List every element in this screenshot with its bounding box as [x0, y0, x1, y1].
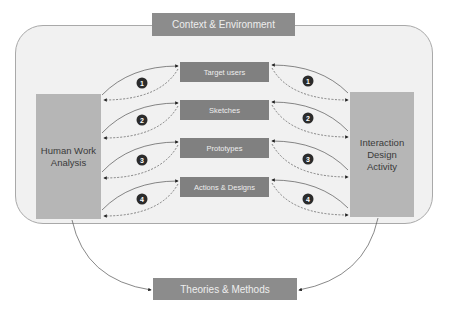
- step-badge-right-3: 3: [303, 154, 314, 165]
- step-badge-right-1: 1: [303, 76, 314, 87]
- step-badge-right-2: 2: [303, 113, 314, 124]
- step-badge-left-1: 1: [137, 78, 148, 89]
- step-badge-left-3: 3: [137, 155, 148, 166]
- context-environment-label: Context & Environment: [152, 13, 295, 36]
- sketches-box: Sketches: [180, 100, 269, 120]
- prototypes-box: Prototypes: [180, 138, 269, 158]
- interaction-design-activity-box: Interaction Design Activity: [350, 92, 414, 217]
- step-badge-left-2: 2: [137, 115, 148, 126]
- step-badge-left-4: 4: [137, 194, 148, 205]
- target-users-box: Target users: [180, 62, 269, 82]
- theories-methods-box: Theories & Methods: [153, 278, 297, 300]
- step-badge-right-4: 4: [303, 194, 314, 205]
- human-work-analysis-box: Human Work Analysis: [36, 94, 101, 219]
- actions-designs-box: Actions & Designs: [180, 177, 269, 197]
